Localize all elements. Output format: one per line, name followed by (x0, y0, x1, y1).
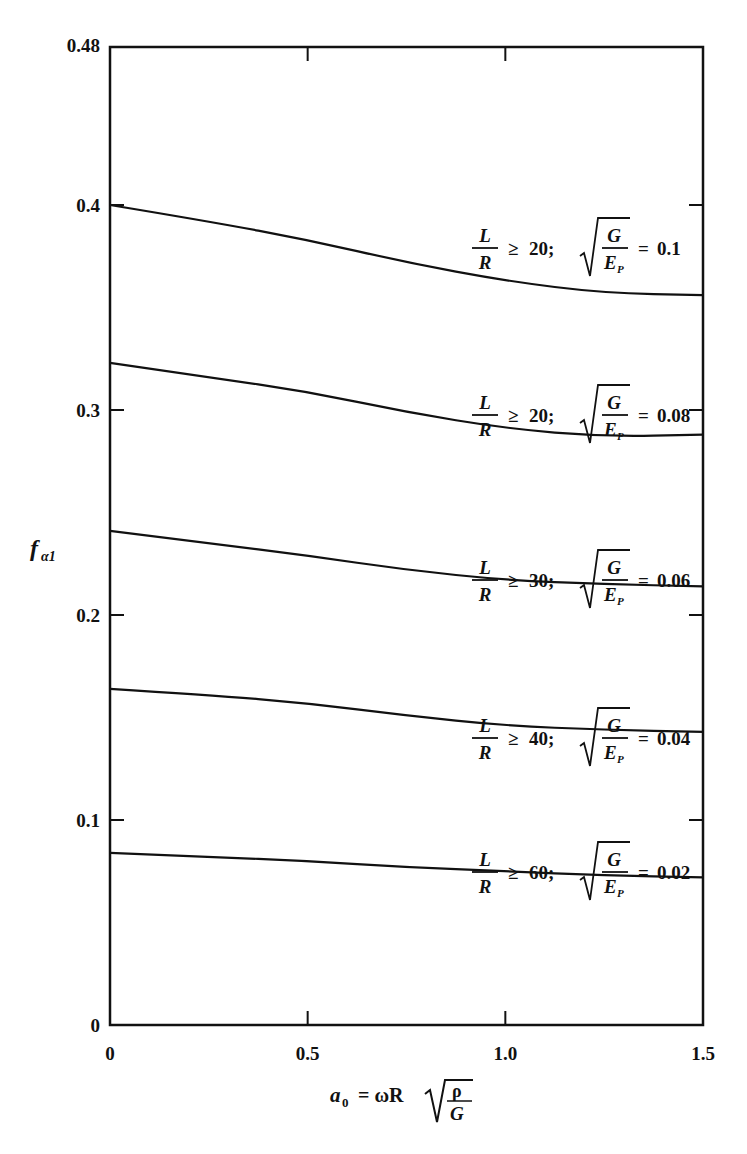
y-label-sub: α1 (41, 549, 56, 564)
y-tick-labels: 00.10.20.30.40.48 (67, 35, 101, 1036)
label-G: G (607, 849, 621, 870)
label-eq: = (638, 728, 649, 749)
x-label-a: a (330, 1083, 341, 1107)
y-tick-label: 0.1 (76, 810, 100, 831)
x-label-den: G (450, 1103, 464, 1124)
label-eq: = (638, 405, 649, 426)
label-L: L (478, 392, 491, 413)
curve-labels: LR≥20;GEP=0.1LR≥20;GEP=0.08LR≥30;GEP=0.0… (472, 218, 691, 900)
label-L: L (478, 849, 491, 870)
curve-label-1: LR≥20;GEP=0.1 (472, 218, 681, 276)
label-P: P (617, 753, 624, 765)
label-G: G (607, 557, 621, 578)
x-label-eq: = ωR (358, 1084, 404, 1106)
label-geq: ≥ (508, 728, 518, 749)
y-tick-label: 0.2 (76, 605, 100, 626)
label-E: E (603, 252, 617, 273)
x-axis-label: a 0 = ωR ρ G (330, 1080, 473, 1124)
label-ratio-value: 0.06 (657, 570, 690, 591)
curve-label-4: LR≥40;GEP=0.04 (472, 708, 691, 766)
label-eq: = (638, 862, 649, 883)
label-P: P (617, 430, 624, 442)
y-axis-label: f α1 (30, 535, 56, 564)
label-lr-value: 30; (529, 570, 554, 591)
curves (110, 205, 703, 877)
x-tick-label: 0 (105, 1043, 115, 1064)
y-tick-label: 0.3 (76, 400, 100, 421)
label-geq: ≥ (508, 570, 518, 591)
y-tick-label: 0.4 (76, 195, 100, 216)
label-eq: = (638, 570, 649, 591)
label-R: R (478, 584, 492, 605)
label-P: P (617, 263, 624, 275)
label-P: P (617, 887, 624, 899)
label-E: E (603, 419, 617, 440)
label-lr-value: 20; (529, 405, 554, 426)
label-R: R (478, 252, 492, 273)
label-E: E (603, 584, 617, 605)
x-label-a-sub: 0 (342, 1095, 349, 1110)
label-R: R (478, 742, 492, 763)
y-label-main: f (30, 535, 40, 561)
label-lr-value: 20; (529, 238, 554, 259)
x-tick-label: 1.0 (493, 1043, 517, 1064)
label-geq: ≥ (508, 238, 518, 259)
y-tick-label: 0 (91, 1015, 101, 1036)
label-G: G (607, 715, 621, 736)
label-ratio-value: 0.04 (657, 728, 691, 749)
x-tick-labels: 00.51.01.5 (105, 1043, 715, 1064)
label-ratio-value: 0.1 (657, 238, 681, 259)
label-L: L (478, 225, 491, 246)
label-G: G (607, 392, 621, 413)
label-E: E (603, 742, 617, 763)
x-label-num: ρ (452, 1081, 462, 1101)
label-P: P (617, 595, 624, 607)
label-geq: ≥ (508, 405, 518, 426)
label-R: R (478, 876, 492, 897)
label-ratio-value: 0.08 (657, 405, 690, 426)
chart: 00.10.20.30.40.48 00.51.01.5 LR≥20;GEP=0… (0, 0, 747, 1154)
label-eq: = (638, 238, 649, 259)
label-L: L (478, 715, 491, 736)
label-lr-value: 60; (529, 862, 554, 883)
label-ratio-value: 0.02 (657, 862, 690, 883)
label-L: L (478, 557, 491, 578)
label-lr-value: 40; (529, 728, 554, 749)
label-G: G (607, 225, 621, 246)
label-E: E (603, 876, 617, 897)
x-tick-label: 0.5 (296, 1043, 320, 1064)
y-tick-label: 0.48 (67, 35, 100, 56)
label-geq: ≥ (508, 862, 518, 883)
label-R: R (478, 419, 492, 440)
x-tick-label: 1.5 (691, 1043, 715, 1064)
